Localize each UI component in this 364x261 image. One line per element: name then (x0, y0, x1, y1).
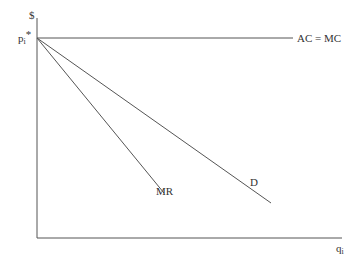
mr-line (37, 38, 164, 193)
demand-label: D (250, 176, 258, 188)
ac-mc-label: AC = MC (297, 32, 341, 44)
monopoly-diagram: $ pi* AC = MC D MR qi (0, 0, 364, 261)
y-axis-label: $ (29, 9, 35, 21)
price-label: pi* (18, 28, 31, 46)
demand-line (37, 38, 271, 203)
mr-label: MR (156, 185, 174, 197)
x-axis-label: qi (336, 242, 345, 256)
